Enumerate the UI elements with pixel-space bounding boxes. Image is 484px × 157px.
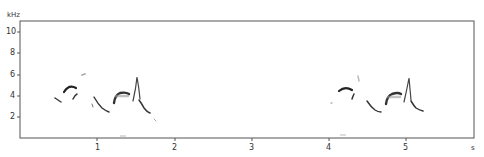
plot-frame — [20, 21, 474, 138]
x-axis-unit-label: s — [471, 145, 475, 152]
y-axis-unit-label: kHz — [7, 12, 20, 19]
y-tick-label-8: 8 — [10, 49, 15, 57]
x-tick-label-2: 2 — [172, 144, 177, 152]
x-tick-label-3: 3 — [249, 144, 254, 152]
y-tick-label-10: 10 — [6, 28, 16, 36]
x-tick-label-4: 4 — [326, 144, 331, 152]
x-tick-label-5: 5 — [403, 144, 408, 152]
y-tick-label-2: 2 — [10, 113, 15, 121]
spectrogram-chart — [0, 0, 484, 157]
y-tick-label-6: 6 — [10, 71, 15, 79]
x-tick-label-1: 1 — [95, 144, 100, 152]
y-tick-label-4: 4 — [10, 92, 15, 100]
